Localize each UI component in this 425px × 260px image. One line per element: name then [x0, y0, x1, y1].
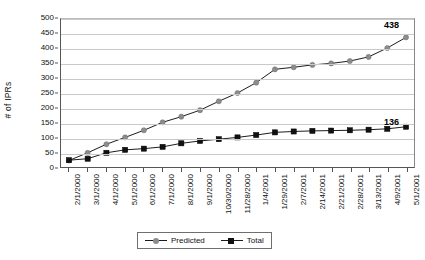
- y-axis-title: # of IPRs: [0, 60, 16, 140]
- y-axis-tickmark: [55, 33, 58, 34]
- chart-container: # of IPRs 500450400350300250200150100500…: [0, 0, 425, 260]
- data-point: [66, 158, 71, 163]
- y-axis-tick-label: 450: [41, 29, 54, 37]
- y-axis-tick-label: 100: [41, 134, 54, 142]
- legend-label: Predicted: [171, 236, 205, 245]
- legend-item-predicted[interactable]: Predicted: [145, 236, 205, 245]
- data-point: [347, 58, 352, 63]
- x-axis-tickmark: [143, 168, 144, 172]
- x-axis-tick-label: 4/9/2001: [392, 174, 404, 224]
- x-axis-tick-label: 1/4/2001: [260, 174, 272, 224]
- data-point: [216, 99, 221, 104]
- legend-label: Total: [247, 236, 264, 245]
- x-axis-tick-label: 5/1/2000: [129, 174, 141, 224]
- x-axis-tick-label: 3/13/2001: [373, 174, 385, 224]
- x-axis-tickmark: [369, 168, 370, 172]
- y-axis-tickmark: [55, 108, 58, 109]
- gridline: [61, 64, 414, 65]
- x-axis-tickmark: [200, 168, 201, 172]
- x-axis-tick-label: 2/28/2001: [355, 174, 367, 224]
- y-axis-tickmark: [55, 78, 58, 79]
- y-axis-tickmark: [55, 123, 58, 124]
- gridline: [61, 79, 414, 80]
- x-axis-tick-label: 7/1/2000: [166, 174, 178, 224]
- y-axis-tick-label: 200: [41, 104, 54, 112]
- gridline: [61, 154, 414, 155]
- data-point: [291, 65, 296, 70]
- x-axis-tickmark: [407, 168, 408, 172]
- x-axis-tick-label: 2/21/2001: [336, 174, 348, 224]
- gridline: [61, 124, 414, 125]
- series-line: [69, 37, 406, 160]
- data-point: [272, 67, 277, 72]
- x-axis-tickmark: [87, 168, 88, 172]
- x-axis-tick-label: 10/30/2000: [223, 174, 235, 224]
- y-axis-tick-label: 150: [41, 119, 54, 127]
- plot-area: [60, 18, 415, 168]
- x-axis-tickmark: [332, 168, 333, 172]
- gridline: [61, 19, 414, 20]
- data-point: [160, 144, 165, 149]
- x-axis-tickmark: [388, 168, 389, 172]
- y-axis-title-text: # of IPRs: [3, 82, 13, 119]
- series-line: [69, 127, 406, 160]
- y-axis-tick-label: 300: [41, 74, 54, 82]
- x-axis-tickmark: [275, 168, 276, 172]
- chart-legend: PredictedTotal: [137, 232, 272, 249]
- data-point: [403, 35, 408, 40]
- x-axis-tickmark: [68, 168, 69, 172]
- x-axis-tickmark: [294, 168, 295, 172]
- x-axis-tick-label: 11/28/2000: [242, 174, 254, 224]
- x-axis-tickmark: [125, 168, 126, 172]
- x-axis-tickmark: [181, 168, 182, 172]
- data-point: [310, 128, 315, 133]
- series-predicted: [66, 35, 408, 163]
- data-point: [254, 132, 259, 137]
- x-axis-tick-label: 3/1/2000: [91, 174, 103, 224]
- gridline: [61, 49, 414, 50]
- data-point: [347, 128, 352, 133]
- x-axis-tickmark: [313, 168, 314, 172]
- x-axis-tick-label: 2/1/2000: [72, 174, 84, 224]
- y-axis-tickmark: [55, 153, 58, 154]
- y-axis-tickmark: [55, 48, 58, 49]
- x-axis-tickmark: [256, 168, 257, 172]
- series-layer: [61, 19, 414, 167]
- x-axis-tick-label: 9/1/2000: [204, 174, 216, 224]
- data-point: [179, 114, 184, 119]
- x-axis-tickmark: [106, 168, 107, 172]
- y-axis-tickmark: [55, 93, 58, 94]
- legend-marker-square-icon: [228, 238, 234, 244]
- x-axis-tickmark: [351, 168, 352, 172]
- y-axis-tickmark: [55, 138, 58, 139]
- x-axis-tick-label: 6/1/2000: [147, 174, 159, 224]
- x-axis-tick-label: 5/1/2001: [411, 174, 423, 224]
- y-axis-tick-labels: 500450400350300250200150100500: [22, 13, 58, 169]
- x-axis-tick-label: 8/1/2000: [185, 174, 197, 224]
- series-total: [66, 124, 408, 163]
- data-point: [291, 129, 296, 134]
- data-point: [141, 128, 146, 133]
- y-axis-tick-label: 0: [50, 164, 54, 172]
- legend-item-total[interactable]: Total: [221, 236, 264, 245]
- legend-swatch-square-icon: [221, 236, 243, 245]
- data-label-predicted-end: 438: [384, 20, 399, 30]
- x-axis-tick-label: 4/1/2000: [110, 174, 122, 224]
- gridline: [61, 109, 414, 110]
- y-axis-tick-label: 250: [41, 89, 54, 97]
- y-axis-tick-label: 400: [41, 44, 54, 52]
- legend-swatch-circle-icon: [145, 236, 167, 245]
- y-axis-tickmark: [55, 63, 58, 64]
- data-point: [179, 141, 184, 146]
- x-axis-tick-label: 2/14/2001: [317, 174, 329, 224]
- data-point: [85, 156, 90, 161]
- legend-marker-circle-icon: [153, 238, 159, 244]
- x-axis-tick-label: 2/7/2001: [298, 174, 310, 224]
- x-axis-tick-labels: 2/1/20003/1/20004/1/20005/1/20006/1/2000…: [60, 174, 415, 224]
- data-point: [272, 130, 277, 135]
- y-axis-tick-label: 500: [41, 14, 54, 22]
- data-point: [141, 146, 146, 151]
- data-label-total-end: 136: [384, 117, 399, 127]
- x-axis-tickmark: [162, 168, 163, 172]
- x-axis-tickmark: [219, 168, 220, 172]
